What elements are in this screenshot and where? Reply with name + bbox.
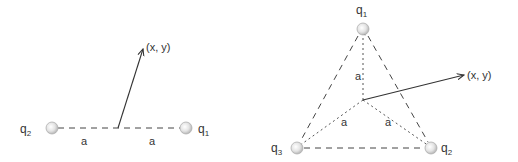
segment-label-right: a: [149, 135, 156, 147]
side-q1-q3: [300, 36, 358, 142]
charge-q1: [357, 23, 369, 35]
segment-label-lower-left: a: [341, 116, 348, 128]
position-vector-arrow: [118, 49, 143, 128]
segment-label-lower-right: a: [385, 116, 392, 128]
median-to-q3: [299, 100, 363, 146]
three-charge-figure: q1 q2 q3 a a a (x, y): [271, 3, 491, 157]
segment-label-top: a: [355, 70, 362, 82]
side-q1-q2: [368, 36, 428, 142]
charge-label-q3: q3: [271, 141, 283, 157]
charge-label-q2: q2: [441, 141, 453, 157]
diagram-canvas: q2 q1 a a (x, y) q1 q2 q3: [0, 0, 518, 162]
charge-q1: [180, 122, 192, 134]
segment-label-left: a: [81, 135, 88, 147]
position-vector-arrow: [363, 75, 464, 100]
charge-label-q1: q1: [198, 122, 210, 138]
diagram-svg: q2 q1 a a (x, y) q1 q2 q3: [0, 0, 518, 162]
two-charge-figure: q2 q1 a a (x, y): [20, 41, 210, 147]
charge-label-q1: q1: [356, 3, 368, 19]
median-to-q2: [363, 100, 429, 146]
charge-q2: [46, 122, 58, 134]
charge-q3: [291, 142, 303, 154]
point-label: (x, y): [467, 69, 491, 81]
point-label: (x, y): [146, 41, 170, 53]
charge-label-q2: q2: [20, 122, 32, 138]
charge-q2: [425, 142, 437, 154]
